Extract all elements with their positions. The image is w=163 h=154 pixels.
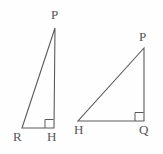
right-angle-marker-h (45, 120, 54, 129)
triangle-phq-outline (78, 48, 144, 121)
vertex-label-r: R (13, 130, 22, 143)
vertex-label-h-left: H (47, 130, 56, 143)
triangle-prh-outline (22, 28, 55, 128)
vertex-label-q: Q (139, 123, 148, 136)
vertex-label-h-right: H (74, 123, 83, 136)
right-angle-marker-q (135, 113, 144, 122)
geometry-figure: P R H P H Q (0, 0, 163, 154)
vertex-label-p-right: P (139, 30, 146, 43)
triangle-phq (78, 48, 144, 121)
triangle-prh (22, 28, 55, 128)
vertex-label-p-left: P (51, 8, 58, 21)
